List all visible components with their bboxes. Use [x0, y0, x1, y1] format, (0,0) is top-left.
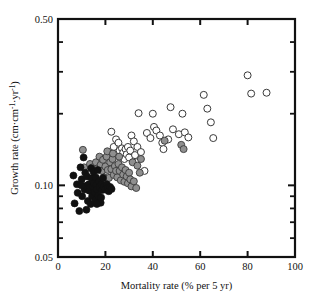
data-point [94, 167, 101, 174]
data-point [108, 186, 115, 193]
data-point [135, 110, 142, 117]
plot-canvas: 020406080100 0.050.100.50 Mortality rate… [0, 0, 318, 303]
plot-frame [58, 19, 295, 257]
data-point [207, 119, 214, 126]
data-point [134, 162, 141, 169]
data-point [180, 146, 187, 153]
data-point [98, 194, 105, 201]
data-point [133, 184, 140, 191]
data-point [80, 154, 87, 161]
x-axis-tick-labels: 020406080100 [55, 261, 303, 272]
data-point [149, 110, 156, 117]
x-tick-label: 60 [195, 261, 206, 272]
data-point [70, 172, 77, 179]
y-tick-label: 0.05 [35, 252, 53, 263]
data-point [79, 146, 86, 153]
data-point [167, 104, 174, 111]
plot-border [58, 19, 295, 257]
data-point [147, 135, 154, 142]
data-point [204, 105, 211, 112]
data-point [210, 135, 217, 142]
data-point [78, 182, 85, 189]
data-point [137, 149, 144, 156]
x-tick-label: 0 [55, 261, 60, 272]
data-point [169, 126, 176, 133]
scatter-plot-figure: 020406080100 0.050.100.50 Mortality rate… [0, 0, 318, 303]
y-axis-title-text: Growth rate (cm·cm-1·yr-1) [9, 81, 21, 195]
data-point [126, 169, 133, 176]
data-point [263, 89, 270, 96]
y-tick-label: 0.50 [35, 14, 53, 25]
data-point [136, 169, 143, 176]
data-point [130, 178, 137, 185]
data-point [116, 153, 123, 160]
data-point [160, 146, 167, 153]
data-point [93, 200, 100, 207]
x-axis-title-text: Mortality rate (% per 5 yr) [121, 280, 233, 292]
x-axis-title: Mortality rate (% per 5 yr) [121, 280, 233, 292]
data-point [108, 128, 115, 135]
y-tick-label: 0.10 [35, 180, 53, 191]
x-tick-label: 100 [287, 261, 303, 272]
y-axis-ticks [58, 19, 295, 257]
data-point [179, 110, 186, 117]
data-point [71, 200, 78, 207]
x-tick-label: 80 [242, 261, 253, 272]
data-points [70, 72, 270, 215]
x-tick-label: 40 [148, 261, 159, 272]
data-point [76, 208, 83, 215]
data-point [100, 174, 107, 181]
data-point [137, 156, 144, 163]
data-point [200, 91, 207, 98]
data-point [185, 134, 192, 141]
y-axis-title: Growth rate (cm·cm-1·yr-1) [9, 81, 21, 195]
y-axis-tick-labels: 0.050.100.50 [35, 14, 53, 263]
data-point [244, 72, 251, 79]
x-tick-label: 20 [100, 261, 111, 272]
x-axis-ticks [58, 19, 295, 257]
data-point [79, 193, 86, 200]
data-point [161, 137, 168, 144]
data-point [248, 90, 255, 97]
